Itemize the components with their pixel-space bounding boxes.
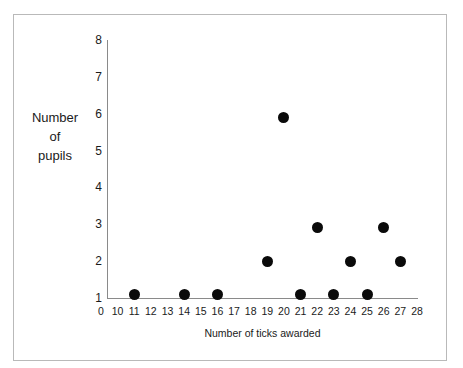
y-axis-tick-label: 7 <box>82 71 102 83</box>
scatter-plot-figure: Number of pupils 12345678 01011121314151… <box>0 0 463 368</box>
data-point <box>262 256 273 267</box>
y-axis-tick-label: 6 <box>82 108 102 120</box>
y-axis-tick-label: 4 <box>82 181 102 193</box>
data-point <box>345 256 356 267</box>
data-point <box>395 256 406 267</box>
data-point <box>278 112 289 123</box>
data-point <box>129 289 140 300</box>
y-axis-tick-label: 2 <box>82 255 102 267</box>
y-axis-tick-label: 5 <box>82 145 102 157</box>
y-axis-tick-label: 3 <box>82 218 102 230</box>
data-point <box>312 222 323 233</box>
data-point <box>378 222 389 233</box>
x-axis-title: Number of ticks awarded <box>107 327 418 340</box>
data-point <box>295 289 306 300</box>
data-point <box>179 289 190 300</box>
x-axis-tick-labels: 010111213141516171819202122232425262728 <box>0 305 463 319</box>
data-point <box>362 289 373 300</box>
y-axis-tick-label: 8 <box>82 34 102 46</box>
y-axis-tick-label: 1 <box>82 292 102 304</box>
x-axis-tick-label: 28 <box>406 305 428 317</box>
plot-area <box>107 40 417 298</box>
data-point <box>212 289 223 300</box>
